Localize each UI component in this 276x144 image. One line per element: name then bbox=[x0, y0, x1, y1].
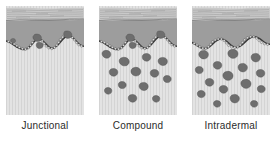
panel-junctional bbox=[6, 6, 84, 115]
nevus-types-figure: Junctional Compound Intradermal bbox=[0, 0, 276, 144]
panel-intradermal bbox=[192, 6, 270, 115]
caption-intradermal: Intradermal bbox=[192, 120, 270, 132]
caption-compound: Compound bbox=[99, 120, 177, 132]
panel-compound bbox=[99, 6, 177, 115]
nest-right bbox=[64, 31, 72, 38]
caption-junctional: Junctional bbox=[6, 120, 84, 132]
